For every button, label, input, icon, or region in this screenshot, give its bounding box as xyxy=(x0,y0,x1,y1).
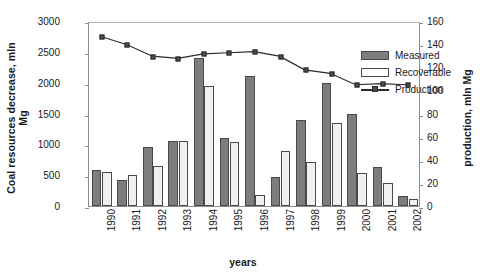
x-tick-label-1996: 1996 xyxy=(259,209,270,231)
y-tick-left-2500: 2500 xyxy=(38,48,60,58)
tick-mark-right-140 xyxy=(419,46,423,47)
tick-mark-left-500 xyxy=(85,177,89,178)
legend-swatch-production xyxy=(361,85,389,94)
production-marker-1998 xyxy=(304,68,309,73)
y-tick-right-20: 20 xyxy=(427,179,438,189)
y-tick-right-0: 0 xyxy=(427,202,433,212)
tick-mark-right-60 xyxy=(419,139,423,140)
x-tick-label-1990: 1990 xyxy=(106,209,117,231)
production-marker-1997 xyxy=(278,54,283,59)
chart-legend: MeasuredRecoverableProduction xyxy=(361,48,479,99)
y-tick-left-500: 500 xyxy=(43,171,60,181)
y-tick-right-80: 80 xyxy=(427,110,438,120)
tick-mark-right-80 xyxy=(419,116,423,117)
legend-swatch-measured xyxy=(361,51,389,60)
y-axis-title-left: Coal resources decrease, mln Mg xyxy=(2,18,32,218)
production-marker-1991 xyxy=(125,42,130,47)
y-tick-right-60: 60 xyxy=(427,133,438,143)
production-marker-2000 xyxy=(355,83,360,88)
production-marker-1999 xyxy=(329,71,334,76)
x-tick-label-1997: 1997 xyxy=(285,209,296,231)
production-marker-1992 xyxy=(150,54,155,59)
y-tick-right-40: 40 xyxy=(427,156,438,166)
y-tick-left-0: 0 xyxy=(54,202,60,212)
y-tick-left-3000: 3000 xyxy=(38,17,60,27)
legend-label-measured: Measured xyxy=(395,50,439,61)
production-marker-1996 xyxy=(253,49,258,54)
y-tick-left-1500: 1500 xyxy=(38,110,60,120)
y-axis-ticks-left: 050010001500200025003000 xyxy=(31,16,63,210)
legend-item-production: Production xyxy=(361,82,479,97)
legend-square-marker-icon xyxy=(372,86,378,92)
tick-mark-right-20 xyxy=(419,185,423,186)
x-axis-title: years xyxy=(0,256,486,268)
tick-mark-right-120 xyxy=(419,69,423,70)
x-tick-label-1991: 1991 xyxy=(131,209,142,231)
x-axis-tick-labels: 1990199119921993199419951996199719981999… xyxy=(88,209,420,255)
x-tick-label-1998: 1998 xyxy=(310,209,321,231)
tick-mark-left-2000 xyxy=(85,85,89,86)
x-tick-label-1995: 1995 xyxy=(233,209,244,231)
tick-mark-left-3000 xyxy=(85,23,89,24)
tick-mark-right-40 xyxy=(419,162,423,163)
legend-label-recoverable: Recoverable xyxy=(395,67,451,78)
x-tick-label-1993: 1993 xyxy=(182,209,193,231)
production-marker-1990 xyxy=(99,34,104,39)
production-marker-1993 xyxy=(176,56,181,61)
y-axis-title-left-line2: Mg xyxy=(17,110,29,125)
y-axis-ticks-right: 020406080100120140160 xyxy=(424,16,456,210)
production-marker-1995 xyxy=(227,51,232,56)
y-tick-right-160: 160 xyxy=(427,17,444,27)
plot-area: MeasuredRecoverableProduction xyxy=(88,22,420,207)
x-tick-label-1999: 1999 xyxy=(336,209,347,231)
chart-figure: Coal resources decrease, mln Mg producti… xyxy=(0,0,486,277)
tick-mark-left-1000 xyxy=(85,146,89,147)
x-tick-label-2002: 2002 xyxy=(412,209,423,231)
legend-item-measured: Measured xyxy=(361,48,479,63)
production-marker-1994 xyxy=(201,52,206,57)
y-axis-title-left-line1: Coal resources decrease, mln xyxy=(5,42,17,194)
legend-item-recoverable: Recoverable xyxy=(361,65,479,80)
tick-mark-left-2500 xyxy=(85,54,89,55)
y-tick-left-1000: 1000 xyxy=(38,140,60,150)
tick-mark-left-1500 xyxy=(85,116,89,117)
tick-mark-right-160 xyxy=(419,23,423,24)
x-tick-label-1994: 1994 xyxy=(208,209,219,231)
tick-mark-right-100 xyxy=(419,92,423,93)
y-tick-left-2000: 2000 xyxy=(38,79,60,89)
x-tick-label-2000: 2000 xyxy=(361,209,372,231)
legend-swatch-recoverable xyxy=(361,68,389,77)
x-tick-label-2001: 2001 xyxy=(387,209,398,231)
x-tick-label-1992: 1992 xyxy=(157,209,168,231)
